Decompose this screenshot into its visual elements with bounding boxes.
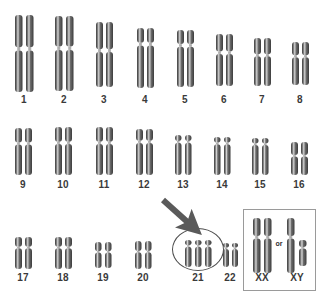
chromosome-7-copy-2 xyxy=(263,37,272,87)
sex-chromosome-XX-copy-2 xyxy=(263,217,273,274)
chromosome-8-copy-1 xyxy=(291,41,300,86)
chromosome-4-copy-2 xyxy=(146,27,155,89)
chromosome-9-copy-1 xyxy=(14,127,23,176)
chromosome-label-7: 7 xyxy=(259,94,265,105)
chromosome-15-copy-1 xyxy=(251,137,260,176)
sex-chromosome-XX-copy-1 xyxy=(252,217,262,274)
karyotype-figure: 12345678910111213141516171819202122XXXYo… xyxy=(0,0,320,297)
sex-chromosome-XY-copy-2 xyxy=(298,239,308,267)
chromosome-15-copy-2 xyxy=(261,137,270,176)
chromosome-16-copy-1 xyxy=(290,141,299,176)
chromosome-20-copy-1 xyxy=(134,240,143,270)
chromosome-11-copy-1 xyxy=(95,126,104,176)
chromosome-17-copy-1 xyxy=(14,236,23,270)
chromosome-10-copy-1 xyxy=(54,126,63,176)
chromosome-14-copy-2 xyxy=(223,136,232,176)
chromosome-label-22: 22 xyxy=(224,272,236,283)
chromosome-2-copy-2 xyxy=(65,15,75,92)
chromosome-4-copy-1 xyxy=(136,27,145,89)
chromosome-label-12: 12 xyxy=(138,179,150,190)
chromosome-label-18: 18 xyxy=(57,272,69,283)
chromosome-1-copy-2 xyxy=(25,14,35,93)
chromosome-5-copy-1 xyxy=(176,29,185,88)
chromosome-3-copy-2 xyxy=(105,21,114,88)
chromosome-20-copy-2 xyxy=(144,240,153,270)
chromosome-17-copy-2 xyxy=(24,236,33,270)
chromosome-5-copy-2 xyxy=(186,29,195,88)
chromosome-6-copy-1 xyxy=(215,33,224,87)
chromosome-label-13: 13 xyxy=(177,179,189,190)
chromosome-label-17: 17 xyxy=(17,272,29,283)
chromosome-label-15: 15 xyxy=(254,179,266,190)
chromosome-label-3: 3 xyxy=(101,94,107,105)
chromosome-11-copy-2 xyxy=(105,126,114,176)
chromosome-12-copy-1 xyxy=(135,128,144,176)
chromosome-label-1: 1 xyxy=(21,94,27,105)
chromosome-22-copy-2 xyxy=(231,242,239,268)
chromosome-9-copy-2 xyxy=(24,127,33,176)
chromosome-7-copy-1 xyxy=(253,37,262,87)
chromosome-8-copy-2 xyxy=(301,41,310,86)
chromosome-2-copy-1 xyxy=(54,15,64,92)
chromosome-12-copy-2 xyxy=(145,128,154,176)
sex-chromosome-label-XX: XX xyxy=(255,272,269,283)
or-separator-label: or xyxy=(276,240,283,247)
chromosome-label-21: 21 xyxy=(192,272,204,283)
chromosome-6-copy-2 xyxy=(225,33,234,87)
chromosome-label-8: 8 xyxy=(297,94,303,105)
chromosome-label-10: 10 xyxy=(57,179,69,190)
chromosome-13-copy-1 xyxy=(174,134,183,176)
chromosome-label-5: 5 xyxy=(182,94,188,105)
chromosome-10-copy-2 xyxy=(64,126,73,176)
chromosome-3-copy-1 xyxy=(95,21,104,88)
chromosome-19-copy-1 xyxy=(94,241,103,269)
chromosome-18-copy-1 xyxy=(54,236,63,270)
chromosome-label-20: 20 xyxy=(137,272,149,283)
chromosome-label-6: 6 xyxy=(221,94,227,105)
chromosome-label-16: 16 xyxy=(293,179,305,190)
trisomy-21-highlight-ellipse xyxy=(172,228,224,271)
chromosome-label-19: 19 xyxy=(97,272,109,283)
sex-chromosome-label-XY: XY xyxy=(290,272,304,283)
chromosome-label-2: 2 xyxy=(61,94,67,105)
chromosome-13-copy-2 xyxy=(184,134,193,176)
sex-chromosome-XY-copy-1 xyxy=(286,217,296,274)
chromosome-label-4: 4 xyxy=(142,94,148,105)
chromosome-label-11: 11 xyxy=(99,179,110,190)
chromosome-19-copy-2 xyxy=(104,241,113,269)
chromosome-16-copy-2 xyxy=(300,141,309,176)
chromosome-label-9: 9 xyxy=(20,179,26,190)
chromosome-label-14: 14 xyxy=(216,179,228,190)
chromosome-1-copy-1 xyxy=(14,14,24,93)
chromosome-18-copy-2 xyxy=(64,236,73,270)
chromosome-14-copy-1 xyxy=(213,136,222,176)
